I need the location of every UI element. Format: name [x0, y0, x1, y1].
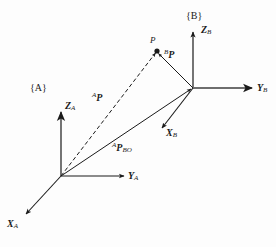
vector-a-p-letter: P [96, 92, 102, 103]
frame-a-axes [26, 112, 124, 214]
vector-b-p-letter: P [168, 49, 174, 60]
frame-a-y-axis-subscript: A [134, 174, 138, 182]
frame-a-x-axis-letter: X [7, 218, 14, 229]
frame-b-y-axis-subscript: B [263, 86, 267, 94]
frame-b-x-axis [162, 88, 193, 128]
frame-a-y-axis-label: YA [128, 171, 138, 182]
point-p-marker [154, 48, 159, 53]
frame-a-x-axis-label: XA [7, 219, 18, 230]
vector-b-p-label: BP [164, 49, 174, 60]
vector-a-p-borg-subscript: BO [122, 146, 131, 154]
frame-a-z-axis-label: ZA [65, 101, 75, 112]
frame-b-tag: {B} [186, 11, 202, 21]
frame-b-z-axis-label: ZB [201, 25, 211, 36]
frame-a-x-axis [26, 176, 61, 214]
point-p-label: P [150, 36, 156, 45]
frame-b-z-axis-subscript: B [207, 28, 211, 36]
vector-a-p-label: AP [92, 92, 102, 103]
frame-b-x-axis-label: XB [166, 128, 177, 139]
frame-a-tag: {A} [30, 83, 47, 93]
frame-b-x-axis-subscript: B [173, 131, 177, 139]
frame-b-x-axis-letter: X [166, 127, 173, 138]
frame-a-x-axis-subscript: A [14, 222, 18, 230]
vector-a-p-borg-label: APBO [112, 142, 132, 154]
frame-b-y-axis-label: YB [257, 83, 267, 94]
coordinate-frame-diagram: {A} ZA YA XA {B} ZB YB XB P AP BP APBO [0, 0, 276, 247]
vector-a-p [61, 53, 156, 176]
diagram-canvas [0, 0, 276, 247]
frame-a-z-axis-subscript: A [71, 104, 75, 112]
frame-b-axes [162, 32, 252, 128]
